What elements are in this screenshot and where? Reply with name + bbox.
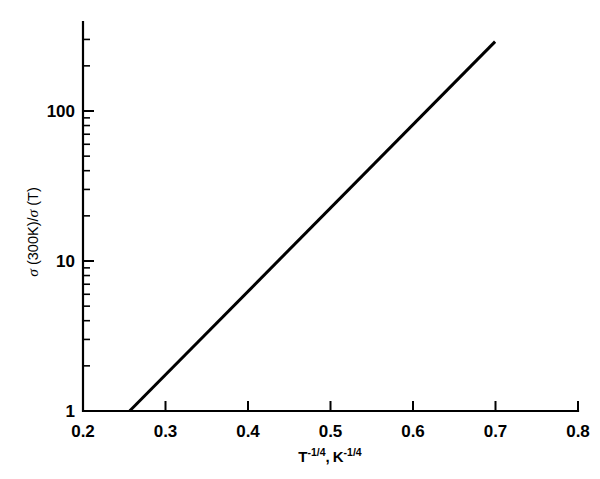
- x-tick-label: 0.3: [154, 422, 178, 441]
- y-tick-label: 100: [47, 102, 75, 121]
- chart-plot-area: 110100 0.20.30.40.50.60.70.8 T-1/4,K-1/4…: [0, 0, 600, 479]
- x-tick-label: 0.6: [401, 422, 425, 441]
- x-tick-label: 0.7: [484, 422, 508, 441]
- x-tick-label: 0.5: [319, 422, 343, 441]
- y-tick-label: 1: [66, 402, 75, 421]
- chart-figure: 110100 0.20.30.40.50.60.70.8 T-1/4,K-1/4…: [0, 0, 600, 479]
- x-tick-label: 0.8: [566, 422, 590, 441]
- y-axis-title: σ (300K)/σ (T): [24, 187, 41, 276]
- y-tick-label: 10: [56, 252, 75, 271]
- x-tick-label: 0.2: [71, 422, 95, 441]
- x-tick-label: 0.4: [236, 422, 260, 441]
